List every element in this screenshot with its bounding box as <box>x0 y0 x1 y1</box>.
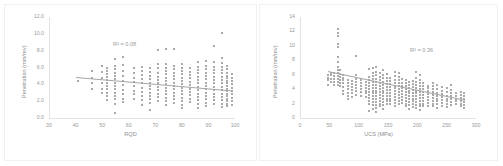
data-point <box>394 96 396 98</box>
data-point <box>339 76 341 78</box>
data-point <box>106 95 108 97</box>
data-point <box>446 100 448 102</box>
data-point <box>173 65 175 67</box>
data-point <box>450 92 452 94</box>
data-point <box>114 58 116 60</box>
data-point <box>347 98 349 100</box>
data-point <box>342 79 344 81</box>
data-point <box>133 98 135 100</box>
data-point <box>405 91 407 93</box>
data-point <box>181 80 183 82</box>
data-point <box>408 92 410 94</box>
data-point <box>460 94 462 96</box>
data-point <box>427 102 429 104</box>
data-point <box>375 84 377 86</box>
data-point <box>355 87 357 89</box>
data-point <box>205 75 207 77</box>
data-point <box>231 80 233 82</box>
data-point <box>422 85 424 87</box>
data-point <box>173 72 175 74</box>
data-point <box>355 81 357 83</box>
data-point <box>205 78 207 80</box>
data-point <box>415 101 417 103</box>
data-point <box>165 104 167 106</box>
data-point <box>231 87 233 89</box>
data-point <box>365 92 367 94</box>
data-point <box>441 99 443 101</box>
data-point <box>133 93 135 95</box>
data-point <box>422 97 424 99</box>
data-point <box>330 81 332 83</box>
data-point <box>333 75 335 77</box>
data-point <box>427 99 429 101</box>
data-point <box>432 82 434 84</box>
data-point <box>441 102 443 104</box>
data-point <box>389 80 391 82</box>
data-point <box>189 98 191 100</box>
data-point <box>419 103 421 105</box>
data-point <box>122 98 124 100</box>
data-point <box>422 100 424 102</box>
data-point <box>419 97 421 99</box>
data-point <box>412 106 414 108</box>
data-point <box>231 73 233 75</box>
data-point <box>398 72 400 74</box>
chart-area-ucs: 02468101214050100150200250300Penetration… <box>260 5 497 160</box>
data-point <box>415 98 417 100</box>
data-point <box>419 94 421 96</box>
data-point <box>360 88 362 90</box>
data-point <box>386 92 388 94</box>
data-point <box>360 79 362 81</box>
data-point <box>412 103 414 105</box>
data-point <box>441 96 443 98</box>
data-point <box>405 103 407 105</box>
data-point <box>106 88 108 90</box>
data-point <box>339 79 341 81</box>
data-point <box>401 93 403 95</box>
data-point <box>463 107 465 109</box>
data-point <box>106 67 108 69</box>
data-point <box>415 104 417 106</box>
data-point <box>347 92 349 94</box>
data-point <box>149 102 151 104</box>
data-point <box>375 74 377 76</box>
data-point <box>91 88 93 90</box>
data-point <box>379 85 381 87</box>
data-point <box>463 101 465 103</box>
data-point <box>386 73 388 75</box>
data-point <box>463 95 465 97</box>
data-point <box>165 90 167 92</box>
data-point <box>398 94 400 96</box>
data-point <box>408 95 410 97</box>
data-point <box>379 91 381 93</box>
data-point <box>446 91 448 93</box>
data-point <box>408 98 410 100</box>
data-point <box>133 85 135 87</box>
data-point <box>213 96 215 98</box>
data-point <box>408 81 410 83</box>
data-point <box>342 93 344 95</box>
data-point <box>197 99 199 101</box>
data-point <box>221 69 223 71</box>
data-point <box>398 79 400 81</box>
data-point <box>405 94 407 96</box>
data-point <box>375 87 377 89</box>
data-point <box>455 100 457 102</box>
data-point <box>405 79 407 81</box>
data-point <box>382 104 384 106</box>
data-point <box>415 87 417 89</box>
data-point <box>419 74 421 76</box>
data-point <box>122 93 124 95</box>
data-point <box>157 67 159 69</box>
data-point <box>205 98 207 100</box>
data-point <box>342 90 344 92</box>
data-point <box>337 35 339 37</box>
data-point <box>327 79 329 81</box>
data-point <box>141 70 143 72</box>
data-point <box>342 77 344 79</box>
data-point <box>375 98 377 100</box>
data-point <box>347 85 349 87</box>
data-point <box>337 56 339 58</box>
data-point <box>165 70 167 72</box>
data-point <box>213 82 215 84</box>
